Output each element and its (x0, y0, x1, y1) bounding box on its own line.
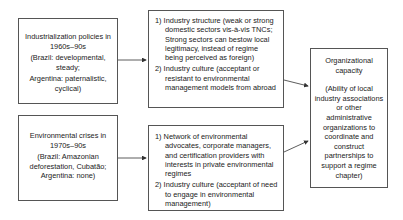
environmental-crises-box: Environmental crises in 1970s–90s (Brazi… (18, 115, 118, 201)
industrialization-title: Industrialization policies in 1960s–90s (22, 32, 114, 51)
organizational-capacity-box: Organizational capacity (Ability of loca… (310, 48, 388, 188)
industry-culture-item: 2) Industry culture (acceptant or resist… (155, 64, 278, 92)
industrialization-brazil: (Brazil: developmental, steady; (22, 53, 114, 72)
arrow-structure-to-capacity (284, 80, 308, 86)
network-item: 1) Network of environmental advocates, c… (155, 132, 278, 178)
industrialization-policies-box: Industrialization policies in 1960s–90s … (18, 18, 118, 104)
arrow-network-to-capacity (284, 141, 308, 152)
industry-structure-item: 1) Industry structure (weak or strong do… (155, 16, 278, 62)
capacity-detail: (Ability of local industry associations … (313, 84, 385, 180)
industry-culture-acceptance-item: 2) Industry culture (acceptant of need t… (155, 180, 278, 208)
environmental-brazil: (Brazil: Amazonian deforestation, Cubatã… (22, 152, 114, 171)
industry-structure-box: 1) Industry structure (weak or strong do… (148, 10, 284, 108)
environmental-argentina: Argentina: none) (22, 171, 114, 181)
network-box: 1) Network of environmental advocates, c… (148, 125, 284, 211)
environmental-title: Environmental crises in 1970s–90s (22, 131, 114, 150)
industrialization-argentina: Argentina: paternalistic, cyclical) (22, 74, 114, 93)
capacity-title: Organizational capacity (313, 56, 385, 75)
